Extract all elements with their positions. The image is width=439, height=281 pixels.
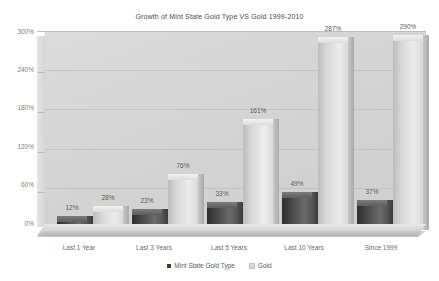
bar-value-label: 287% (325, 25, 342, 32)
plot-left-wall (37, 36, 45, 227)
bar-side (348, 37, 354, 231)
bar-value-label: 33% (215, 190, 228, 197)
legend-swatch-icon-dark (167, 264, 171, 268)
bar-value-label: 161% (250, 107, 267, 114)
legend-item-mint-state-gold-type[interactable]: Mint State Gold Type (167, 262, 235, 269)
bar-face (318, 43, 348, 231)
bar-face (243, 125, 273, 230)
y-axis-label-300: 300% (2, 28, 34, 35)
bar-face (393, 41, 423, 231)
y-axis-label-60: 60% (2, 181, 34, 188)
bar-top (168, 174, 198, 180)
bar-top (357, 200, 387, 206)
bar-value-label: 290% (400, 23, 417, 30)
bar-last-5-years-gold[interactable]: 161% (243, 125, 273, 230)
bar-top (393, 35, 423, 41)
x-axis-label-since-1999: Since 1999 (340, 244, 422, 251)
bar-top (282, 192, 312, 198)
bar-top (207, 202, 237, 208)
gridline-300 (45, 31, 426, 32)
x-axis-label-last-10-years: Last 10 Years (263, 244, 345, 251)
axis-tick-240 (37, 72, 45, 73)
bar-top (318, 37, 348, 43)
chart-legend: Mint State Gold Type Gold (0, 262, 439, 269)
gridline-240 (45, 70, 426, 71)
bar-top (57, 216, 87, 222)
axis-tick-120 (37, 152, 45, 153)
y-axis: 300% 240% 180% 120% 60% 0% (0, 31, 34, 236)
plot-floor-edge (37, 231, 426, 237)
y-axis-label-0: 0% (2, 220, 34, 227)
y-axis-label-120: 120% (2, 143, 34, 150)
axis-tick-180 (37, 112, 45, 113)
bar-value-label: 28% (101, 194, 114, 201)
bar-value-label: 12% (65, 204, 78, 211)
bar-value-label: 37% (365, 188, 378, 195)
bar-top (93, 206, 123, 212)
legend-label: Gold (258, 262, 272, 269)
bar-value-label: 76% (176, 162, 189, 169)
y-axis-label-180: 180% (2, 104, 34, 111)
legend-item-gold[interactable]: Gold (249, 262, 272, 269)
bar-side (273, 119, 279, 230)
bar-value-label: 23% (140, 197, 153, 204)
bar-top (132, 209, 162, 215)
x-axis-label-last-3-years: Last 3 Years (113, 244, 195, 251)
bar-face (168, 180, 198, 230)
bar-side (198, 174, 204, 230)
axis-tick-300 (37, 31, 45, 32)
bar-side (423, 35, 429, 231)
bar-value-label: 49% (290, 180, 303, 187)
bar-last-10-years-gold[interactable]: 287% (318, 43, 348, 231)
bar-top (243, 119, 273, 125)
bar-since-1999-gold[interactable]: 290% (393, 41, 423, 231)
growth-comparison-bar-chart: Growth of Mint State Gold Type VS Gold 1… (0, 0, 439, 281)
y-axis-label-240: 240% (2, 66, 34, 73)
chart-title: Growth of Mint State Gold Type VS Gold 1… (0, 13, 439, 20)
gridline-180 (45, 109, 426, 110)
x-axis-label-last-1-year: Last 1 Year (38, 244, 120, 251)
gridline-120 (45, 149, 426, 150)
axis-tick-60 (37, 192, 45, 193)
legend-swatch-icon-light (249, 263, 255, 269)
legend-label: Mint State Gold Type (174, 262, 235, 269)
bar-last-3-years-gold[interactable]: 76% (168, 180, 198, 230)
plot-area: 12% 28% 23% 76% 33% (37, 31, 426, 230)
x-axis-label-last-5-years: Last 5 Years (188, 244, 270, 251)
